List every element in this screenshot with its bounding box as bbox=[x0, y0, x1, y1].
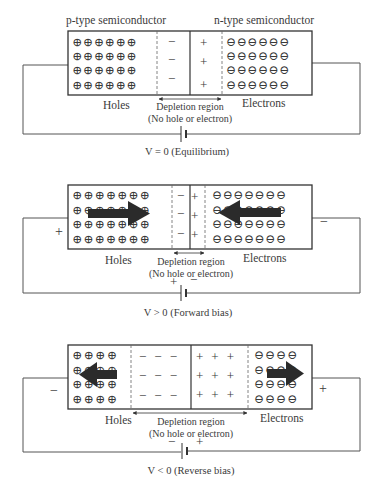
battery-icon bbox=[181, 126, 186, 142]
svg-text:⊖⊖⊖⊖⊖⊖: ⊖⊖⊖⊖⊖⊖ bbox=[226, 78, 290, 92]
svg-text:+++: +++ bbox=[196, 368, 242, 383]
svg-text:+: + bbox=[191, 227, 198, 242]
svg-text:−−−: −−− bbox=[139, 388, 185, 403]
svg-text:⊕⊕⊕⊕⊕⊕: ⊕⊕⊕⊕⊕⊕ bbox=[72, 63, 137, 77]
svg-text:−: − bbox=[177, 206, 184, 221]
battery-icon bbox=[181, 285, 186, 301]
panel-forward-bias: + − + − ⊕⊕⊕⊕⊕⊕⊕ ⊕⊕⊕⊕⊕⊕⊕ ⊕⊕⊕⊕⊕⊕⊕ ⊕⊕⊕⊕⊕⊕⊕ … bbox=[23, 185, 360, 319]
caption-forward-bias: V > 0 (Forward bias) bbox=[144, 307, 233, 319]
electrons-label: Electrons bbox=[243, 252, 287, 264]
svg-text:+: + bbox=[191, 208, 198, 223]
depletion-label: Depletion region bbox=[156, 101, 223, 112]
holes-label: Holes bbox=[105, 414, 132, 426]
svg-text:⊖⊖⊖⊖⊖⊖⊖: ⊖⊖⊖⊖⊖⊖⊖ bbox=[212, 232, 287, 246]
svg-text:+: + bbox=[191, 189, 198, 204]
donor-ions: +++ +++ +++ bbox=[196, 349, 242, 402]
holes-label: Holes bbox=[103, 99, 130, 111]
n-type-label: n-type semiconductor bbox=[214, 14, 314, 27]
battery-icon bbox=[182, 443, 187, 459]
right-terminal-sign: + bbox=[319, 381, 327, 396]
svg-text:⊕⊕⊕⊕: ⊕⊕⊕⊕ bbox=[72, 392, 118, 406]
svg-text:⊕⊕⊕⊕⊕⊕: ⊕⊕⊕⊕⊕⊕ bbox=[72, 49, 137, 63]
svg-text:+++: +++ bbox=[196, 349, 242, 364]
svg-text:+: + bbox=[200, 35, 207, 50]
left-terminal-sign: − bbox=[50, 383, 58, 398]
donor-ions: + + + bbox=[200, 35, 207, 92]
svg-text:−−−: −−− bbox=[139, 349, 185, 364]
depletion-sublabel: (No hole or electron) bbox=[149, 268, 233, 280]
donor-ions: + + + bbox=[191, 189, 198, 242]
svg-text:⊖⊖⊖⊖⊖⊖: ⊖⊖⊖⊖⊖⊖ bbox=[226, 35, 290, 49]
pn-junction-diagram: p-type semiconductor n-type semiconducto… bbox=[0, 0, 379, 492]
left-terminal-sign: + bbox=[55, 224, 63, 239]
electrons-label: Electrons bbox=[242, 97, 286, 109]
svg-text:−: − bbox=[168, 71, 175, 86]
acceptor-ions: −−− −−− −−− bbox=[139, 349, 185, 403]
acceptor-ions: − − − bbox=[177, 188, 184, 241]
panel-reverse-bias: − + − + ⊕⊕⊕⊕ ⊕⊕⊕⊕ ⊕⊕⊕⊕ ⊕⊕⊕⊕ −−− −−− −−− … bbox=[23, 345, 360, 477]
right-terminal-sign: − bbox=[320, 214, 328, 229]
depletion-label: Depletion region bbox=[157, 416, 224, 427]
acceptor-ions: − − − bbox=[168, 34, 175, 86]
electrons-grid: ⊖⊖⊖⊖⊖⊖ ⊖⊖⊖⊖⊖⊖ ⊖⊖⊖⊖⊖⊖ ⊖⊖⊖⊖⊖⊖ bbox=[226, 35, 290, 92]
svg-text:+++: +++ bbox=[196, 387, 242, 402]
svg-text:−−−: −−− bbox=[139, 368, 185, 383]
svg-text:−: − bbox=[177, 226, 184, 241]
caption-equilibrium: V = 0 (Equilibrium) bbox=[145, 146, 230, 158]
svg-text:⊖⊖⊖⊖⊖⊖: ⊖⊖⊖⊖⊖⊖ bbox=[226, 63, 290, 77]
svg-text:⊕⊕⊕⊕⊕⊕⊕: ⊕⊕⊕⊕⊕⊕⊕ bbox=[72, 232, 151, 246]
svg-text:−: − bbox=[168, 52, 175, 67]
panel-equilibrium: p-type semiconductor n-type semiconducto… bbox=[23, 14, 360, 158]
depletion-sublabel: (No hole or electron) bbox=[149, 428, 233, 440]
caption-reverse-bias: V < 0 (Reverse bias) bbox=[148, 465, 235, 477]
svg-text:⊕⊕⊕⊕: ⊕⊕⊕⊕ bbox=[72, 348, 118, 362]
holes-label: Holes bbox=[105, 254, 132, 266]
holes-grid: ⊕⊕⊕⊕⊕⊕ ⊕⊕⊕⊕⊕⊕ ⊕⊕⊕⊕⊕⊕ ⊕⊕⊕⊕⊕⊕ bbox=[72, 35, 137, 92]
svg-text:⊖⊖⊖⊖⊖⊖⊖: ⊖⊖⊖⊖⊖⊖⊖ bbox=[212, 217, 287, 231]
svg-text:⊖⊖⊖⊖⊖⊖⊖: ⊖⊖⊖⊖⊖⊖⊖ bbox=[212, 188, 287, 202]
depletion-label: Depletion region bbox=[157, 256, 224, 267]
svg-text:⊖⊖⊖⊖: ⊖⊖⊖⊖ bbox=[254, 348, 298, 362]
depletion-sublabel: (No hole or electron) bbox=[148, 113, 232, 125]
svg-text:⊕⊕⊕⊕⊕⊕: ⊕⊕⊕⊕⊕⊕ bbox=[72, 35, 137, 49]
svg-text:−: − bbox=[168, 34, 175, 49]
svg-text:+: + bbox=[200, 77, 207, 92]
svg-text:⊕⊕⊕⊕⊕⊕: ⊕⊕⊕⊕⊕⊕ bbox=[72, 78, 137, 92]
svg-text:⊕⊕⊕⊕⊕⊕⊕: ⊕⊕⊕⊕⊕⊕⊕ bbox=[72, 188, 151, 202]
svg-text:⊖⊖⊖⊖⊖⊖: ⊖⊖⊖⊖⊖⊖ bbox=[226, 49, 290, 63]
p-type-label: p-type semiconductor bbox=[66, 14, 166, 27]
svg-text:⊖⊖⊖⊖: ⊖⊖⊖⊖ bbox=[254, 392, 298, 406]
svg-text:−: − bbox=[177, 188, 184, 203]
electrons-label: Electrons bbox=[260, 412, 304, 424]
svg-text:+: + bbox=[200, 54, 207, 69]
